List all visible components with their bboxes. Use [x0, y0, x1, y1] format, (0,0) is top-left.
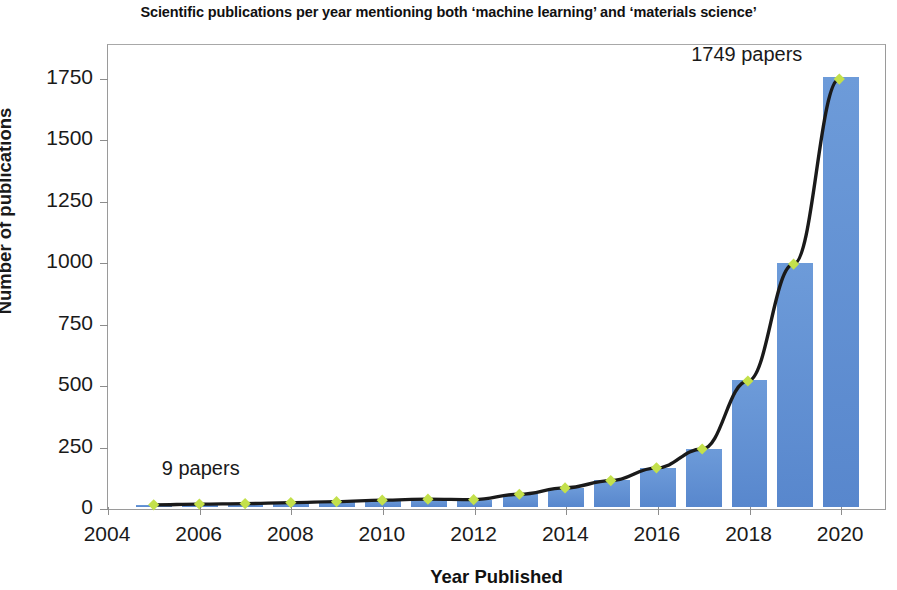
x-axis-tick — [566, 507, 567, 515]
annotation-layer: 9 papers 1749 papers — [108, 45, 885, 509]
y-axis-tick-label: 0 — [81, 495, 93, 519]
y-axis-tick — [100, 202, 108, 203]
y-axis-tick — [100, 263, 108, 264]
y-axis-tick-label: 1500 — [46, 126, 93, 150]
y-axis-tick — [100, 140, 108, 141]
x-axis-tick-label: 2016 — [634, 522, 681, 546]
y-axis-tick — [100, 325, 108, 326]
x-axis-tick-label: 2012 — [450, 522, 497, 546]
annotation-high: 1749 papers — [691, 43, 802, 66]
x-axis-tick-label: 2004 — [84, 522, 131, 546]
x-axis-tick-label: 2006 — [175, 522, 222, 546]
x-axis-tick-label: 2020 — [817, 522, 864, 546]
y-axis-tick-label: 500 — [58, 372, 93, 396]
y-axis-tick-label: 250 — [58, 434, 93, 458]
y-axis-tick-label: 750 — [58, 311, 93, 335]
chart-title: Scientific publications per year mention… — [0, 4, 897, 20]
y-axis-tick — [100, 79, 108, 80]
x-axis-tick — [750, 507, 751, 515]
x-axis-tick — [383, 507, 384, 515]
y-axis-tick-label: 1000 — [46, 249, 93, 273]
chart-figure: Scientific publications per year mention… — [0, 0, 897, 590]
x-axis-tick-label: 2014 — [542, 522, 589, 546]
x-axis-tick — [200, 507, 201, 515]
x-axis-tick-label: 2008 — [267, 522, 314, 546]
x-axis-tick-label: 2010 — [359, 522, 406, 546]
x-axis-tick — [841, 507, 842, 515]
x-axis-tick — [658, 507, 659, 515]
y-axis-title-label: Number of publications — [0, 0, 16, 446]
annotation-low: 9 papers — [162, 457, 240, 480]
y-axis-tick-label: 1750 — [46, 65, 93, 89]
y-axis-tick — [100, 448, 108, 449]
x-axis-tick — [108, 507, 109, 515]
y-axis-tick — [100, 509, 108, 510]
x-axis-tick — [475, 507, 476, 515]
plot-area: 9 papers 1749 papers — [107, 44, 886, 510]
x-axis-title-label: Year Published — [107, 566, 886, 588]
y-axis-tick-label: 1250 — [46, 188, 93, 212]
x-axis-tick — [291, 507, 292, 515]
y-axis-tick — [100, 386, 108, 387]
x-axis-tick-label: 2018 — [725, 522, 772, 546]
